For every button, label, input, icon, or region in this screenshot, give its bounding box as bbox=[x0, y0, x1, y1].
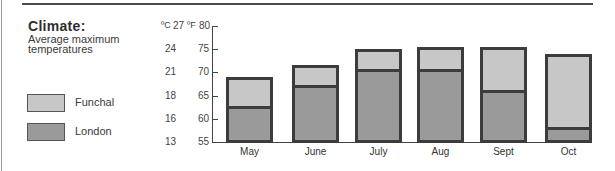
bar-segment-london bbox=[358, 72, 399, 140]
bar-june bbox=[292, 65, 339, 143]
bar-segment-london bbox=[295, 88, 336, 140]
legend-swatch-london bbox=[27, 123, 65, 141]
x-tick-label: Oct bbox=[540, 146, 597, 157]
y-tick-mark bbox=[212, 72, 218, 73]
bar-segment-funchal bbox=[358, 52, 399, 70]
y-tick-label-c: 27 bbox=[173, 20, 184, 31]
y-tick-label-c: 13 bbox=[156, 136, 176, 147]
bar-segment-london bbox=[548, 130, 589, 140]
y-tick-mark bbox=[212, 26, 218, 27]
bar-divider bbox=[483, 90, 524, 93]
left-border bbox=[1, 0, 2, 171]
bar-segment-funchal bbox=[548, 57, 589, 128]
legend-label: London bbox=[75, 125, 112, 137]
y-tick-label-c: 24 bbox=[156, 43, 176, 54]
bar-segment-funchal bbox=[420, 50, 461, 70]
chart-subtitle: Average maximum temperatures bbox=[28, 34, 138, 54]
y-tick-label-c: 16 bbox=[156, 113, 176, 124]
y-tick-label-f: 70 bbox=[189, 66, 209, 77]
bar-segment-london bbox=[229, 109, 270, 140]
bar-divider bbox=[295, 85, 336, 88]
bar-segment-funchal bbox=[483, 50, 524, 91]
legend-label: Funchal bbox=[75, 96, 114, 108]
legend-swatch-funchal bbox=[27, 94, 65, 112]
bar-segment-funchal bbox=[295, 68, 336, 86]
x-tick-label: May bbox=[221, 146, 278, 157]
bar-segment-funchal bbox=[229, 80, 270, 107]
y-tick-mark bbox=[212, 49, 218, 50]
celsius-unit-label: ºC bbox=[161, 20, 171, 30]
bar-divider bbox=[420, 69, 461, 72]
x-tick-label: June bbox=[287, 146, 344, 157]
y-tick-mark bbox=[212, 96, 218, 97]
y-tick-mark bbox=[212, 119, 218, 120]
y-tick-label-c: 18 bbox=[156, 90, 176, 101]
bar-divider bbox=[548, 127, 589, 130]
bar-sept bbox=[480, 47, 527, 143]
bar-segment-london bbox=[420, 72, 461, 140]
y-tick-label-f: 55 bbox=[189, 136, 209, 147]
top-rule bbox=[22, 3, 593, 5]
bar-divider bbox=[358, 69, 399, 72]
y-tick-label-f: 60 bbox=[189, 113, 209, 124]
x-tick-label: Aug bbox=[412, 146, 469, 157]
x-tick-label: July bbox=[350, 146, 407, 157]
bar-segment-london bbox=[483, 93, 524, 140]
chart-title: Climate: bbox=[28, 18, 86, 34]
y-tick-label-f: 80 bbox=[190, 20, 210, 31]
bar-july bbox=[355, 49, 402, 143]
y-tick-label-f: 75 bbox=[189, 43, 209, 54]
bar-oct bbox=[545, 54, 592, 143]
bar-divider bbox=[229, 106, 270, 109]
y-axis-line bbox=[212, 26, 213, 143]
bar-may bbox=[226, 77, 273, 143]
x-tick-label: Sept bbox=[475, 146, 532, 157]
bar-aug bbox=[417, 47, 464, 143]
y-tick-label-c: 21 bbox=[156, 66, 176, 77]
y-tick-label-f: 65 bbox=[189, 90, 209, 101]
